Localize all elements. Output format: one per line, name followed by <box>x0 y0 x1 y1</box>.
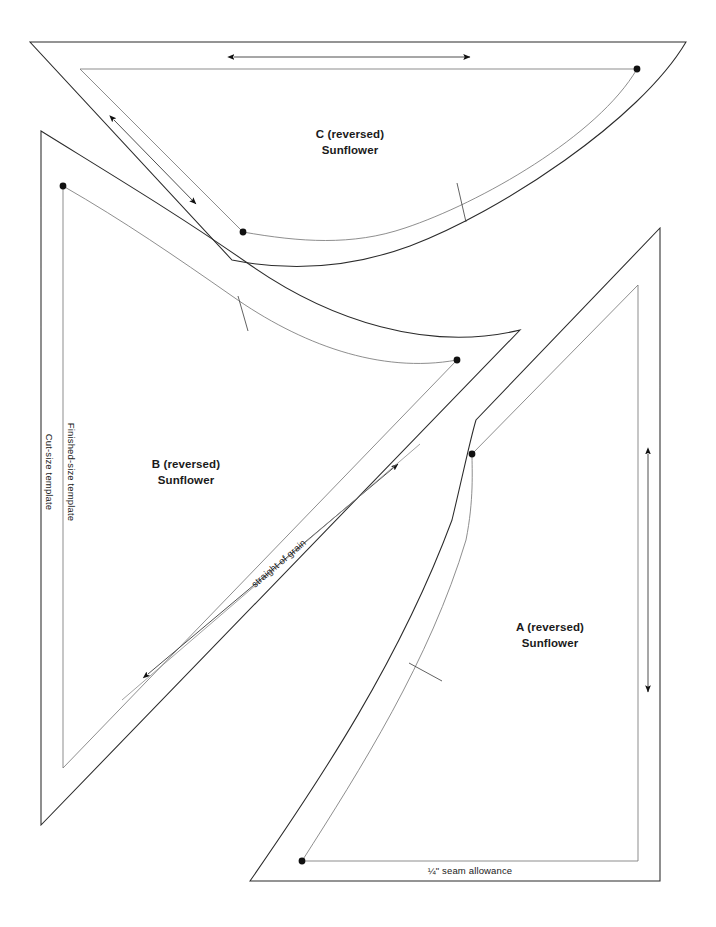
piece-b-finished-outline <box>63 186 457 768</box>
dot-c-inner-corner <box>240 229 247 236</box>
piece-b-cut-outline <box>41 131 520 825</box>
piece-b[interactable]: straight of grain Cut-size template Fini… <box>41 131 520 825</box>
pattern-drawing: C (reversed) Sunflower straight of grain… <box>0 0 716 927</box>
notch-c <box>457 183 466 222</box>
piece-c-label-line2: Sunflower <box>322 144 379 156</box>
dot-b-curve-end <box>454 357 461 364</box>
dot-a-top <box>469 451 476 458</box>
dot-c-right <box>634 66 641 73</box>
finished-size-template-label: Finished-size template <box>66 423 77 521</box>
notch-a <box>409 663 442 681</box>
cut-size-template-label: Cut-size template <box>44 434 55 510</box>
piece-a-finished-outline <box>302 285 638 861</box>
piece-c-label-line1: C (reversed) <box>316 128 384 140</box>
grain-arrow-c-diagonal <box>114 120 196 204</box>
notch-b <box>238 296 248 331</box>
piece-a-label-line1: A (reversed) <box>516 621 584 633</box>
piece-b-label-line2: Sunflower <box>158 474 215 486</box>
piece-a-label-line2: Sunflower <box>522 637 579 649</box>
piece-c[interactable]: C (reversed) Sunflower <box>30 42 686 267</box>
seam-allowance-label: ¼" seam allowance <box>428 865 513 876</box>
piece-a-cut-outline <box>250 228 660 881</box>
piece-a[interactable]: ¼" seam allowance A (reversed) Sunflower <box>250 228 660 881</box>
pattern-sheet: C (reversed) Sunflower straight of grain… <box>0 0 716 927</box>
dot-a-bottom <box>299 858 306 865</box>
piece-b-label-line1: B (reversed) <box>152 458 220 470</box>
dot-b-top <box>60 183 67 190</box>
